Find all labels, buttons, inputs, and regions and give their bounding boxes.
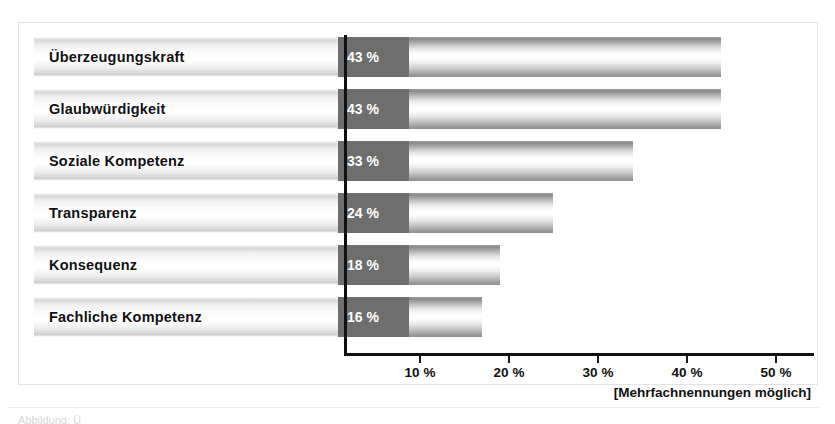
x-axis-tick-label: 20 % [494,365,525,380]
chart-row: Überzeugungskraft 43 % [19,37,819,77]
bar-value-label: 16 % [338,297,409,337]
x-axis-tick [419,356,421,363]
bar-segment [409,141,633,181]
figure-caption: Abbildung: Ü [18,414,81,424]
x-axis-line [344,353,814,356]
category-label: Soziale Kompetenz [49,141,185,181]
bar-segment [409,89,721,129]
x-axis-tick-label: 30 % [583,365,614,380]
chart-row: Soziale Kompetenz 33 % [19,141,819,181]
category-label: Überzeugungskraft [49,37,185,77]
category-label: Transparenz [49,193,137,233]
multiple-answers-note: [Mehrfachnennungen möglich] [614,385,811,400]
y-axis-line [344,35,347,355]
bar-segment [409,297,482,337]
x-axis-tick [775,356,777,363]
chart-frame: Überzeugungskraft 43 % Glaubwürdigkeit 4… [18,22,818,385]
bar-segment [409,193,553,233]
bar-value-label: 33 % [338,141,409,181]
chart-row: Transparenz 24 % [19,193,819,233]
chart-row: Konsequenz 18 % [19,245,819,285]
bar-value-label: 43 % [338,37,409,77]
x-axis-tick [686,356,688,363]
bar-value-label: 18 % [338,245,409,285]
x-axis-tick [597,356,599,363]
page-divider [8,407,820,408]
x-axis-tick [508,356,510,363]
category-label: Konsequenz [49,245,137,285]
x-axis-tick-label: 40 % [672,365,703,380]
category-label: Fachliche Kompetenz [49,297,202,337]
bar-value-label: 43 % [338,89,409,129]
x-axis-tick-label: 10 % [405,365,436,380]
bar-segment [409,245,500,285]
bar-segment [409,37,721,77]
bar-value-label: 24 % [338,193,409,233]
chart-row: Glaubwürdigkeit 43 % [19,89,819,129]
plot-area: Überzeugungskraft 43 % Glaubwürdigkeit 4… [19,23,819,386]
x-axis-tick-label: 50 % [761,365,792,380]
category-label: Glaubwürdigkeit [49,89,166,129]
chart-row: Fachliche Kompetenz 16 % [19,297,819,337]
